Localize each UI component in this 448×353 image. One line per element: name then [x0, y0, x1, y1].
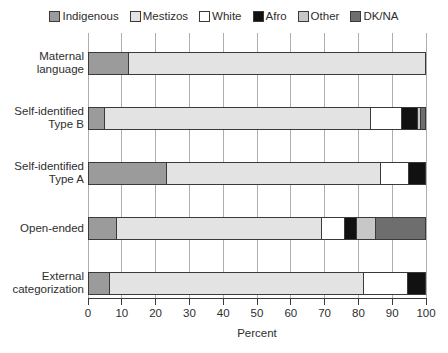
legend-swatch-mestizos — [130, 11, 141, 22]
bar-maternal-language — [88, 52, 426, 75]
bar-segment-indigenous — [89, 108, 104, 129]
legend-item-white: White — [199, 10, 241, 22]
bar-segment-indigenous — [89, 163, 166, 184]
bar-segment-indigenous — [89, 218, 116, 239]
legend-swatch-dk-na — [350, 11, 361, 22]
x-tick-100 — [426, 299, 427, 305]
category-label-external-categorization: External categorization — [0, 270, 84, 296]
x-axis-line — [88, 298, 427, 299]
bar-segment-dk-na — [420, 108, 425, 129]
legend-item-mestizos: Mestizos — [130, 10, 188, 22]
category-label-maternal-language: Maternal language — [0, 50, 84, 76]
bar-segment-mestizos — [104, 108, 369, 129]
bar-segment-white — [370, 108, 402, 129]
legend-label: DK/NA — [363, 10, 398, 22]
x-tick-50 — [257, 299, 258, 305]
x-tick-30 — [189, 299, 190, 305]
legend-label: Indigenous — [62, 10, 118, 22]
bar-segment-afro — [407, 273, 425, 294]
bar-segment-other — [356, 218, 374, 239]
bar-segment-white — [380, 163, 409, 184]
bar-external-categorization — [88, 272, 426, 295]
x-tick-0 — [88, 299, 89, 305]
bar-segment-afro — [401, 108, 416, 129]
bar-segment-dk-na — [375, 218, 425, 239]
legend-label: Other — [311, 10, 340, 22]
x-tick-40 — [223, 299, 224, 305]
bar-segment-mestizos — [128, 53, 425, 74]
legend-swatch-white — [199, 11, 210, 22]
bar-segment-mestizos — [166, 163, 379, 184]
x-axis-title: Percent — [88, 327, 426, 339]
x-tick-label-50: 50 — [242, 307, 272, 319]
x-tick-60 — [290, 299, 291, 305]
bar-segment-afro — [408, 163, 425, 184]
legend-swatch-afro — [253, 11, 264, 22]
x-tick-label-100: 100 — [411, 307, 441, 319]
legend-label: Mestizos — [143, 10, 188, 22]
legend-swatch-indigenous — [49, 11, 60, 22]
x-tick-70 — [324, 299, 325, 305]
legend-item-indigenous: Indigenous — [49, 10, 118, 22]
x-tick-90 — [392, 299, 393, 305]
category-label-self-identified-type-b: Self-identified Type B — [0, 105, 84, 131]
x-tick-10 — [121, 299, 122, 305]
x-tick-label-20: 20 — [141, 307, 171, 319]
legend-label: White — [212, 10, 241, 22]
legend-item-afro: Afro — [253, 10, 287, 22]
legend-swatch-other — [298, 11, 309, 22]
bar-segment-indigenous — [89, 53, 128, 74]
x-tick-label-0: 0 — [73, 307, 103, 319]
category-label-self-identified-type-a: Self-identified Type A — [0, 160, 84, 186]
chart-legend: IndigenousMestizosWhiteAfroOtherDK/NA — [0, 10, 448, 22]
bar-segment-white — [321, 218, 345, 239]
x-tick-label-40: 40 — [208, 307, 238, 319]
x-tick-label-80: 80 — [343, 307, 373, 319]
stacked-bar-chart: IndigenousMestizosWhiteAfroOtherDK/NA Ma… — [0, 0, 448, 353]
legend-item-dk-na: DK/NA — [350, 10, 398, 22]
bar-segment-mestizos — [109, 273, 363, 294]
bar-segment-mestizos — [116, 218, 321, 239]
bar-self-identified-type-a — [88, 162, 426, 185]
x-tick-label-70: 70 — [310, 307, 340, 319]
bar-open-ended — [88, 217, 426, 240]
plot-area — [88, 33, 426, 298]
x-tick-label-10: 10 — [107, 307, 137, 319]
bar-segment-afro — [344, 218, 356, 239]
bar-self-identified-type-b — [88, 107, 426, 130]
legend-item-other: Other — [298, 10, 340, 22]
x-tick-20 — [155, 299, 156, 305]
x-tick-label-60: 60 — [276, 307, 306, 319]
bar-segment-white — [363, 273, 407, 294]
x-tick-label-30: 30 — [174, 307, 204, 319]
legend-label: Afro — [266, 10, 287, 22]
x-tick-label-90: 90 — [377, 307, 407, 319]
category-label-open-ended: Open-ended — [0, 222, 84, 235]
x-tick-80 — [358, 299, 359, 305]
bar-segment-indigenous — [89, 273, 109, 294]
